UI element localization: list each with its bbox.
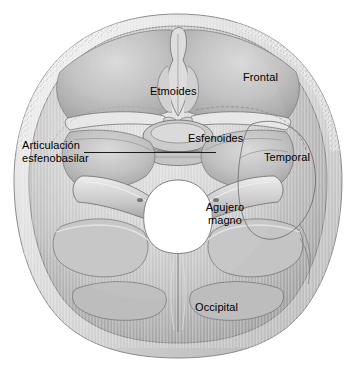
- label-frontal: Frontal: [243, 71, 278, 84]
- internal-skull-base: [10, 0, 340, 348]
- label-articulacion-line1: Articulación: [22, 139, 84, 152]
- label-articulacion-esfenobasilar: Articulación esfenobasilar: [22, 139, 84, 164]
- skull-illustration: [0, 0, 357, 365]
- label-agujero-magno: Agujero magno: [196, 201, 254, 226]
- label-articulacion-line2: esfenobasilar: [22, 152, 84, 165]
- label-agujero-line1: Agujero: [196, 201, 254, 214]
- articulacion-esfenobasilar-leader: [84, 152, 216, 153]
- label-temporal: Temporal: [264, 151, 310, 164]
- label-etmoides: Etmoides: [150, 85, 197, 98]
- label-esfenoides: Esfenoides: [188, 132, 243, 145]
- label-agujero-line2: magno: [196, 214, 254, 227]
- label-occipital: Occipital: [195, 301, 238, 314]
- skull-base-figure: Articulación esfenobasilar Etmoides Fron…: [0, 0, 357, 365]
